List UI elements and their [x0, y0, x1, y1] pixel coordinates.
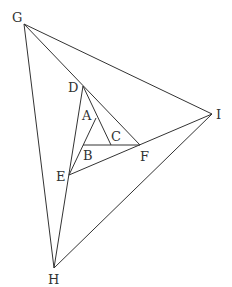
- labels-group: ABCDEFGHI: [12, 10, 221, 287]
- point-label-d: D: [68, 80, 78, 95]
- point-label-b: B: [83, 148, 93, 163]
- segment-gf: [24, 24, 140, 145]
- point-label-f: F: [140, 149, 149, 164]
- point-label-h: H: [48, 272, 59, 287]
- point-label-a: A: [81, 108, 92, 123]
- point-label-e: E: [56, 169, 66, 184]
- point-label-g: G: [12, 10, 22, 25]
- segment-gh: [24, 24, 54, 268]
- geometry-diagram: ABCDEFGHI: [0, 0, 232, 287]
- segments-group: [24, 24, 212, 268]
- point-label-c: C: [111, 129, 121, 144]
- point-label-i: I: [216, 107, 221, 122]
- segment-ig: [24, 24, 212, 114]
